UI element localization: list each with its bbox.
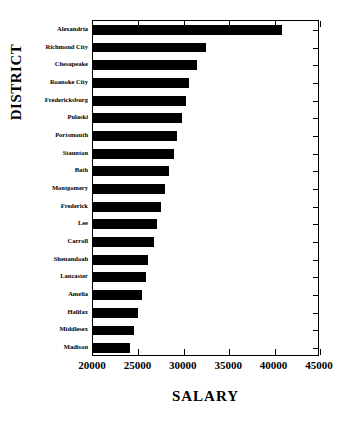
bar [93, 290, 142, 300]
y-axis-tick [313, 48, 318, 49]
x-axis-tick-label: 25000 [124, 359, 152, 371]
bar-row [93, 149, 318, 159]
y-axis-category-label: Pulaski [67, 113, 88, 121]
y-axis-tick [313, 83, 318, 84]
bar [93, 131, 177, 141]
y-axis-category-label: Staunton [63, 149, 88, 157]
bar-row [93, 219, 318, 229]
salary-by-district-bar-chart: DISTRICT AlexandriaRichmond CityChesapea… [0, 0, 347, 425]
bar [93, 326, 134, 336]
bar-row [93, 78, 318, 88]
plot-area [92, 20, 319, 356]
y-axis-tick [313, 295, 318, 296]
y-axis-tick [313, 171, 318, 172]
bar [93, 96, 186, 106]
x-axis-tick [275, 349, 276, 355]
bar-row [93, 255, 318, 265]
x-axis-tick-label: 35000 [214, 359, 242, 371]
bar [93, 237, 154, 247]
y-axis-category-label: Shenandoah [54, 255, 88, 263]
y-axis-category-label: Lancaster [60, 272, 88, 280]
bar [93, 166, 169, 176]
x-axis-tick-top [184, 21, 185, 27]
x-axis-tick-label: 45000 [305, 359, 333, 371]
y-axis-tick [313, 330, 318, 331]
y-axis-category-label: Bath [75, 166, 88, 174]
bar-row [93, 184, 318, 194]
y-axis-category-label: Middlesex [59, 325, 88, 333]
x-axis-tick-labels: 200002500030000350004000045000 [0, 359, 347, 375]
x-axis-tick-top [138, 21, 139, 27]
y-axis-category-label: Montgomery [52, 184, 88, 192]
y-axis-category-label: Roanoke City [50, 78, 88, 86]
y-axis-tick [313, 348, 318, 349]
bar [93, 78, 189, 88]
y-axis-category-label: Frederick [61, 202, 88, 210]
bar [93, 272, 146, 282]
y-axis-tick [313, 136, 318, 137]
y-axis-category-label: Halifax [67, 308, 88, 316]
y-axis-category-label: Lee [78, 219, 88, 227]
y-axis-tick [313, 260, 318, 261]
y-axis-tick [313, 118, 318, 119]
bar [93, 113, 182, 123]
bar-row [93, 25, 318, 35]
y-axis-tick [313, 207, 318, 208]
y-axis-category-label: Chesapeake [55, 60, 88, 68]
bar [93, 202, 161, 212]
bar-row [93, 237, 318, 247]
y-axis-tick [313, 277, 318, 278]
y-axis-tick [313, 189, 318, 190]
bar [93, 255, 148, 265]
x-axis-title: SALARY [92, 388, 319, 405]
x-axis-tick-label: 30000 [169, 359, 197, 371]
y-axis-tick [313, 101, 318, 102]
y-axis-category-label: Alexandria [57, 25, 88, 33]
y-axis-tick [313, 65, 318, 66]
bar-row [93, 131, 318, 141]
x-axis-tick-top [229, 21, 230, 27]
bar-row [93, 43, 318, 53]
bar [93, 60, 197, 70]
bar-row [93, 96, 318, 106]
bars-layer [93, 21, 318, 355]
bar [93, 149, 174, 159]
x-axis-tick-label: 40000 [260, 359, 288, 371]
bar-row [93, 60, 318, 70]
bar-row [93, 113, 318, 123]
y-axis-category-label: Amelia [68, 290, 88, 298]
bar [93, 219, 157, 229]
bar-row [93, 272, 318, 282]
bar-row [93, 343, 318, 353]
y-axis-tick [313, 154, 318, 155]
x-axis-tick [229, 349, 230, 355]
bar-row [93, 308, 318, 318]
bar [93, 184, 165, 194]
y-axis-tick [313, 30, 318, 31]
bar-row [93, 166, 318, 176]
y-axis-category-labels: AlexandriaRichmond CityChesapeakeRoanoke… [0, 20, 88, 356]
x-axis-tick-label: 20000 [78, 359, 106, 371]
x-axis-tick [184, 349, 185, 355]
x-axis-tick-top [320, 21, 321, 27]
bar [93, 43, 206, 53]
y-axis-tick [313, 313, 318, 314]
y-axis-tick [313, 242, 318, 243]
x-axis-tick-top [275, 21, 276, 27]
y-axis-category-label: Portsmouth [55, 131, 88, 139]
y-axis-tick [313, 224, 318, 225]
y-axis-category-label: Fredericksburg [45, 96, 88, 104]
y-axis-category-label: Carroll [68, 237, 88, 245]
bar [93, 308, 138, 318]
bar-row [93, 202, 318, 212]
bar-row [93, 326, 318, 336]
x-axis-tick [320, 349, 321, 355]
y-axis-category-label: Richmond City [46, 43, 88, 51]
bar [93, 343, 130, 353]
x-axis-tick [138, 349, 139, 355]
y-axis-category-label: Madison [64, 343, 88, 351]
bar [93, 25, 282, 35]
bar-row [93, 290, 318, 300]
